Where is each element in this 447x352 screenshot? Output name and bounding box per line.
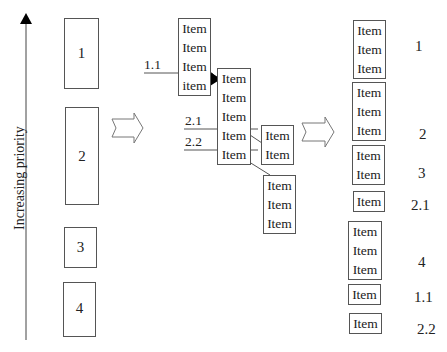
result-group-2: Item Item Item [352, 82, 386, 141]
priority-block-1: 1 [64, 18, 99, 89]
middle-stack-b: Item Item Item Item Item [217, 68, 251, 165]
item: Item [264, 214, 295, 233]
item: Item [354, 59, 385, 78]
middle-stack-c: Item Item [261, 125, 294, 165]
item: Item [353, 83, 385, 102]
item: Item [262, 145, 293, 164]
item: Item [354, 21, 385, 40]
middle-stack-d: Item Item Item [263, 175, 296, 234]
result-label-2-1: 2.1 [411, 197, 430, 214]
result-label-1: 1 [415, 38, 423, 55]
item: Item [353, 146, 384, 165]
axis-label: Increasing priority [12, 126, 28, 230]
result-label-2-2: 2.2 [417, 321, 436, 338]
result-group-1: Item Item Item [353, 20, 386, 79]
priority-block-label: 4 [64, 300, 95, 317]
label-2-2: 2.2 [185, 134, 202, 150]
priority-block-3: 3 [64, 227, 97, 268]
result-group-4: Item [353, 191, 385, 212]
result-label-3: 3 [418, 165, 426, 182]
item: Item [349, 260, 381, 279]
item: Item [218, 126, 250, 145]
result-group-7: Item [349, 313, 382, 334]
item: Item [354, 40, 385, 59]
item: Item [179, 57, 210, 76]
item: Item [349, 241, 381, 260]
priority-block-2: 2 [65, 107, 99, 205]
item: Item [353, 102, 385, 121]
priority-block-label: 1 [65, 45, 98, 62]
result-label-1-1: 1.1 [414, 289, 433, 306]
item: Item [354, 192, 384, 211]
item: Item [218, 88, 250, 107]
item: Item [350, 314, 381, 333]
item: Item [179, 38, 210, 57]
item: Item [349, 285, 380, 304]
result-label-4: 4 [418, 254, 426, 271]
item: Item [264, 195, 295, 214]
priority-block-label: 3 [65, 239, 96, 256]
result-label-2: 2 [419, 126, 427, 143]
item: Item [353, 121, 385, 140]
result-group-5: Item Item Item [348, 221, 382, 280]
item: Item [264, 176, 295, 195]
axis-arrowhead-icon [20, 13, 32, 24]
priority-block-4: 4 [63, 282, 96, 337]
block-arrow-icon-2 [302, 117, 334, 147]
result-group-6: Item [348, 284, 381, 305]
item: Item [349, 222, 381, 241]
item: Item [262, 126, 293, 145]
item: Item [218, 145, 250, 164]
item: Item [179, 19, 210, 38]
item: Item [218, 107, 250, 126]
label-1-1: 1.1 [144, 57, 161, 73]
priority-block-label: 2 [66, 148, 98, 165]
item: Item [218, 69, 250, 88]
block-arrow-icon-1 [112, 113, 143, 143]
item: Item [353, 165, 384, 184]
label-2-1: 2.1 [185, 113, 202, 129]
result-group-3: Item Item [352, 145, 385, 185]
item: item [179, 76, 210, 95]
middle-stack-a: Item Item Item item [178, 18, 211, 96]
